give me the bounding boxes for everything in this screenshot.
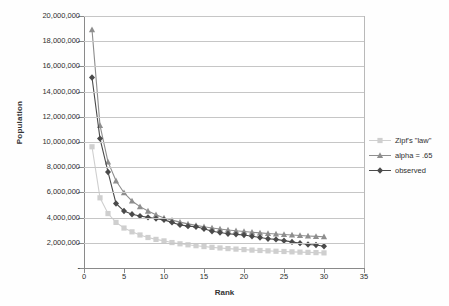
gridline [84, 92, 364, 93]
series-1 [89, 144, 326, 255]
x-tick-label: 30 [314, 272, 334, 281]
legend-item-3[interactable]: observed [369, 163, 449, 178]
y-tick-label: 14,000,000 [42, 87, 80, 96]
series-3 [89, 74, 327, 249]
x-tick-label: 10 [154, 272, 174, 281]
x-tick-label: 20 [234, 272, 254, 281]
gridline [84, 142, 364, 143]
y-axis-title: Population [15, 78, 24, 168]
y-tick-label: - [78, 263, 81, 272]
y-tick-label: 20,000,000 [42, 11, 80, 20]
legend-label: observed [395, 166, 426, 175]
legend-marker-icon [369, 135, 391, 146]
chart-legend: Zipf's "law"alpha = .65observed [369, 133, 449, 178]
gridline [84, 218, 364, 219]
x-tick-label: 35 [354, 272, 374, 281]
x-axis-title: Rank [84, 288, 365, 297]
gridline [84, 66, 364, 67]
legend-item-1[interactable]: Zipf's "law" [369, 133, 449, 148]
chart-container: Population -2,000,0004,000,0006,000,0008… [0, 0, 449, 306]
series-2 [89, 26, 327, 239]
gridline [84, 167, 364, 168]
gridline [84, 117, 364, 118]
legend-item-2[interactable]: alpha = .65 [369, 148, 449, 163]
chart-svg [84, 17, 364, 269]
legend-label: alpha = .65 [395, 151, 432, 160]
y-tick-label: 6,000,000 [47, 187, 80, 196]
y-tick-label: 10,000,000 [42, 137, 80, 146]
x-tick-label: 0 [74, 272, 94, 281]
y-tick-label: 12,000,000 [42, 112, 80, 121]
gridline [84, 41, 364, 42]
x-axis-line [84, 268, 365, 269]
legend-marker-icon [369, 165, 391, 176]
gridline [84, 243, 364, 244]
gridline [84, 192, 364, 193]
y-tick-label: 2,000,000 [47, 238, 80, 247]
x-tick-label: 5 [114, 272, 134, 281]
gridline [84, 16, 364, 17]
y-tick-label: 18,000,000 [42, 36, 80, 45]
y-tick-label: 4,000,000 [47, 213, 80, 222]
y-tick-label: 8,000,000 [47, 162, 80, 171]
y-tick-label: 16,000,000 [42, 61, 80, 70]
legend-label: Zipf's "law" [395, 136, 431, 145]
legend-marker-icon [369, 150, 391, 161]
x-tick-label: 15 [194, 272, 214, 281]
x-tick-label: 25 [274, 272, 294, 281]
